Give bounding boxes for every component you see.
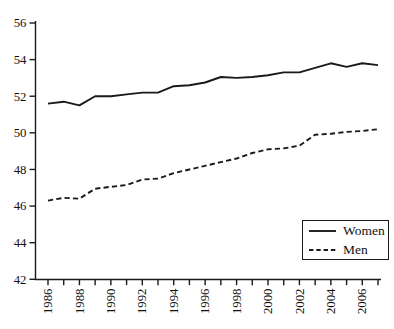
y-tick-label: 48 — [14, 163, 27, 177]
women-solid-line-swatch — [309, 229, 336, 233]
men-series-line — [48, 129, 378, 200]
y-tick-label: 52 — [14, 90, 27, 104]
y-tick-label: 42 — [14, 273, 27, 287]
x-tick-label: 2002 — [293, 289, 307, 315]
line-chart-figure: 5654525048464442198619881990199219941996… — [0, 0, 394, 329]
plot-area: 5654525048464442198619881990199219941996… — [0, 0, 394, 329]
legend-entry-men: Men — [309, 242, 388, 258]
y-tick-label: 50 — [14, 126, 27, 140]
x-tick-label: 2006 — [355, 288, 369, 314]
men-dashed-line-swatch — [309, 248, 336, 252]
x-tick-label: 1990 — [104, 289, 118, 315]
legend-entry-women: Women — [309, 223, 388, 239]
legend-box: Women Men — [302, 220, 389, 260]
legend-label-men: Men — [343, 243, 368, 257]
x-tick-label: 1994 — [167, 288, 181, 314]
y-tick-label: 44 — [14, 236, 27, 250]
x-tick-label: 2000 — [261, 289, 275, 315]
x-tick-label: 1998 — [230, 289, 244, 315]
x-tick-label: 1988 — [73, 289, 87, 315]
y-tick-label: 46 — [14, 199, 27, 213]
women-series-line — [48, 63, 378, 105]
legend-label-women: Women — [343, 224, 385, 238]
x-tick-label: 2004 — [324, 288, 338, 314]
y-tick-label: 56 — [14, 16, 27, 30]
y-tick-label: 54 — [14, 53, 27, 67]
x-tick-label: 1986 — [41, 288, 55, 314]
x-tick-label: 1996 — [198, 288, 212, 314]
x-tick-label: 1992 — [135, 289, 149, 315]
